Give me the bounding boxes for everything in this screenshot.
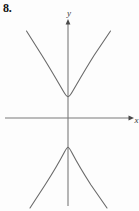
hyperbola-figure: y x [0,0,139,211]
x-axis-label: x [134,115,139,125]
y-axis-arrowhead [66,19,71,25]
axes-group [5,19,134,206]
x-axis-arrowhead [129,116,135,121]
figure-page: 8. y x [0,0,139,211]
y-axis-label: y [66,8,71,18]
